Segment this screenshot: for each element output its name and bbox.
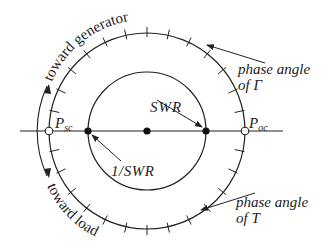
phase-gamma-label-line2: of Γ [238, 77, 263, 93]
phase-gamma-label-line1: phase angle [237, 61, 310, 77]
phase-t-label-line1: phase angle [235, 194, 308, 210]
diagram-canvas: toward generator toward load phase angle… [0, 0, 331, 251]
toward-load-arrowhead-icon [44, 168, 51, 178]
swr-label: SWR [150, 99, 182, 115]
inv-swr-pointer-arrow [92, 135, 121, 161]
swr-diagram: toward generator toward load phase angle… [0, 0, 331, 251]
psc-point [45, 127, 53, 135]
toward-generator-label: toward generator [40, 8, 129, 83]
swr-point [202, 127, 209, 134]
phase-t-label-line2: of T [236, 210, 261, 226]
center-point [143, 127, 150, 134]
inv-swr-label: 1/SWR [111, 163, 154, 179]
toward-generator-arrowhead-icon [44, 84, 51, 94]
inv-swr-point [84, 127, 91, 134]
poc-point [241, 127, 249, 135]
psc-label: Psc [54, 115, 73, 133]
poc-label: Poc [248, 115, 268, 133]
toward-load-label: toward load [44, 181, 102, 240]
